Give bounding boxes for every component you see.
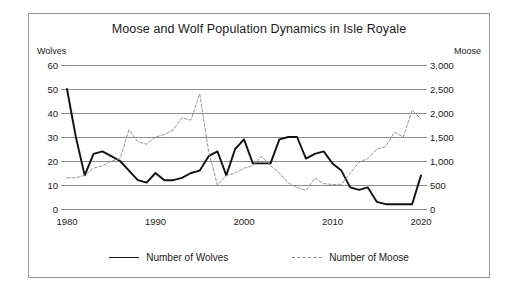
y-axis-right-tick-label: 0: [430, 204, 435, 215]
legend: Number of Wolves Number of Moose: [29, 252, 489, 263]
series-line-wolves: [67, 89, 421, 204]
x-axis-tick-label: 2020: [410, 216, 431, 227]
left-axis-caption: Wolves: [37, 46, 66, 56]
x-axis-tick-label: 1980: [56, 216, 77, 227]
y-axis-right-tick-label: 1,500: [430, 132, 454, 143]
y-axis-left-tick-label: 60: [47, 60, 58, 71]
y-axis-left-tick-label: 0: [53, 204, 58, 215]
y-axis-left-tick-label: 40: [47, 108, 58, 119]
right-axis-caption: Moose: [454, 46, 481, 56]
y-axis-left-tick-label: 30: [47, 132, 58, 143]
series-layer: [67, 65, 421, 209]
y-axis-right-tick-label: 3,000: [430, 60, 454, 71]
chart-figure: Moose and Wolf Population Dynamics in Is…: [28, 13, 490, 278]
legend-label-moose: Number of Moose: [329, 252, 408, 263]
legend-label-wolves: Number of Wolves: [146, 252, 228, 263]
y-axis-right-tick-label: 2,000: [430, 108, 454, 119]
legend-line-dashed-icon: [292, 257, 322, 258]
legend-line-solid-icon: [109, 257, 139, 258]
y-axis-right-tick-label: 500: [430, 180, 446, 191]
gridline: [61, 209, 427, 210]
plot-area: 0102030405060 05001,0001,5002,0002,5003,…: [67, 65, 421, 209]
x-axis-tick-label: 2000: [233, 216, 254, 227]
x-axis-tick-label: 1990: [145, 216, 166, 227]
y-axis-left-tick-label: 20: [47, 156, 58, 167]
y-axis-right-tick-label: 2,500: [430, 84, 454, 95]
x-axis-tick-label: 2010: [322, 216, 343, 227]
legend-item-wolves: Number of Wolves: [109, 252, 228, 263]
y-axis-right-tick-label: 1,000: [430, 156, 454, 167]
y-axis-left-tick-label: 50: [47, 84, 58, 95]
legend-item-moose: Number of Moose: [292, 252, 408, 263]
y-axis-left-tick-label: 10: [47, 180, 58, 191]
page-title: Moose and Wolf Population Dynamics in Is…: [29, 22, 489, 36]
series-line-moose: [67, 94, 421, 191]
